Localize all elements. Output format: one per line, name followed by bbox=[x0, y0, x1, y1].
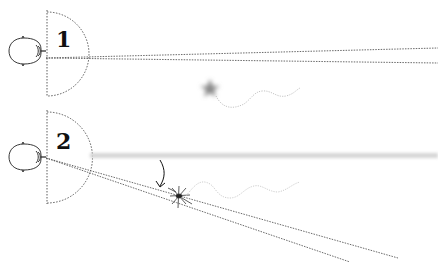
observer-head-icon bbox=[9, 36, 46, 66]
line-of-sight-lower bbox=[46, 58, 438, 63]
panel-2 bbox=[9, 110, 438, 262]
panel-1 bbox=[9, 10, 438, 107]
sharp-insect-icon bbox=[168, 186, 192, 208]
previous-line-of-sight-blur bbox=[90, 153, 438, 158]
observer-head-icon bbox=[9, 142, 46, 172]
diagram-canvas: 1 2 bbox=[0, 0, 438, 266]
insect-flight-trail bbox=[186, 182, 300, 198]
field-of-view-arc bbox=[47, 112, 93, 203]
blurred-insect-icon bbox=[200, 79, 220, 97]
angled-line-of-sight-lower bbox=[46, 158, 350, 262]
field-of-view-arc bbox=[47, 12, 89, 96]
panel-label-2: 2 bbox=[56, 130, 71, 152]
insect-flight-trail bbox=[216, 88, 300, 107]
angled-line-of-sight-upper bbox=[46, 158, 398, 258]
gaze-rotation-arrow-icon bbox=[156, 160, 165, 187]
line-of-sight-upper bbox=[46, 48, 438, 58]
panel-label-1: 1 bbox=[56, 28, 71, 50]
